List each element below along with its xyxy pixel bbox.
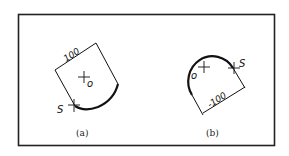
panel-b: -100 o S (b): [188, 56, 246, 138]
panel-a: 100 o S (a): [55, 43, 118, 138]
center-label: o: [87, 78, 93, 89]
extension-line-start: [192, 95, 203, 115]
center-label: o: [191, 70, 197, 81]
dimension-label: -100: [206, 90, 229, 110]
arc-path: [75, 84, 118, 109]
arc-length-diagram: 100 o S (a) -100 o S (b): [0, 0, 289, 156]
extension-line-end: [96, 43, 118, 84]
figure-frame: [19, 15, 275, 146]
extension-line-start: [55, 70, 75, 106]
caption: (b): [206, 128, 219, 138]
start-label: S: [57, 104, 64, 115]
dimension-label: 100: [62, 46, 82, 64]
caption: (a): [76, 128, 88, 138]
start-label: S: [239, 58, 246, 69]
extension-line-end: [233, 68, 245, 88]
